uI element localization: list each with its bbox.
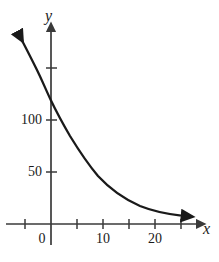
x-tick-label-20: 20 [143, 232, 167, 246]
y-axis-label: y [45, 8, 52, 24]
x-tick-label-10: 10 [91, 232, 115, 246]
y-tick-label-100: 100 [6, 113, 42, 127]
exponential-decay-graph-figure: y x 100 50 0 10 20 [0, 0, 219, 262]
x-axis-label: x [203, 221, 210, 237]
graph-canvas [0, 0, 219, 262]
exponential-decay-curve [18, 33, 183, 216]
y-tick-label-50: 50 [6, 165, 42, 179]
x-tick-label-0: 0 [33, 232, 51, 246]
